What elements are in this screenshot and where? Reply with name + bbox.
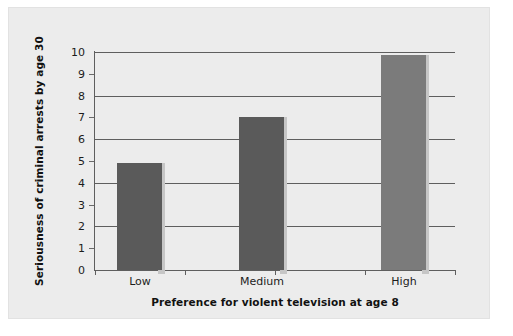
x-axis-title: Preference for violent television at age… bbox=[95, 296, 455, 308]
y-axis-title: Seriousness of criminal arrests by age 3… bbox=[31, 52, 47, 270]
y-axis-title-text: Seriousness of criminal arrests by age 3… bbox=[33, 36, 45, 286]
y-tick-label: 3 bbox=[63, 198, 85, 211]
x-tick-label-high: High bbox=[391, 275, 416, 288]
y-tick-label: 0 bbox=[63, 264, 85, 277]
y-tick-label: 7 bbox=[63, 111, 85, 124]
y-tick-label: 4 bbox=[63, 176, 85, 189]
y-tick-label: 1 bbox=[63, 242, 85, 255]
y-tick-label: 6 bbox=[63, 133, 85, 146]
y-tick-label: 5 bbox=[63, 155, 85, 168]
figure-panel: Seriousness of criminal arrests by age 3… bbox=[8, 7, 490, 319]
x-axis-tick-mark bbox=[185, 270, 186, 275]
plot-area bbox=[95, 52, 455, 270]
x-axis-tick-mark bbox=[455, 270, 456, 275]
y-tick-label: 2 bbox=[63, 220, 85, 233]
y-tick-label: 8 bbox=[63, 89, 85, 102]
x-tick-label-medium: Medium bbox=[240, 275, 284, 288]
bar-high[interactable] bbox=[381, 55, 426, 270]
bar-low[interactable] bbox=[117, 163, 162, 270]
x-axis-tick-mark bbox=[365, 270, 366, 275]
x-tick-label-low: Low bbox=[129, 275, 151, 288]
y-tick-label: 9 bbox=[63, 67, 85, 80]
x-axis-tick-mark bbox=[95, 270, 96, 275]
y-tick-label: 10 bbox=[63, 46, 85, 59]
bar-medium[interactable] bbox=[239, 117, 284, 270]
y-axis-tick-labels: 10 9 8 7 6 5 4 3 2 1 0 bbox=[61, 8, 85, 318]
gridline bbox=[95, 52, 455, 53]
